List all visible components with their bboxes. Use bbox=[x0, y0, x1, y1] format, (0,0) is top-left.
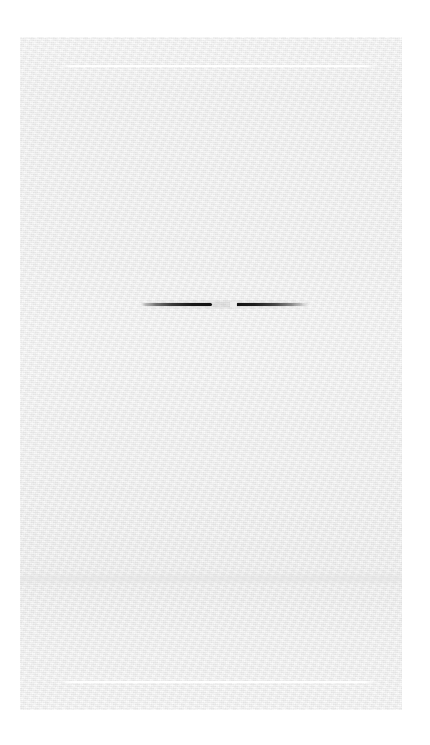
hairline-rule-bottom bbox=[58, 681, 378, 683]
ink-stroke-mark bbox=[135, 299, 290, 311]
ink-stroke-segment-right bbox=[236, 303, 309, 306]
paper-tone-overlay bbox=[20, 37, 402, 710]
viewport bbox=[0, 0, 430, 745]
scanned-page-panel[interactable] bbox=[20, 37, 402, 710]
paper-grain-fine bbox=[20, 37, 402, 710]
paper-grain-coarse bbox=[20, 37, 402, 710]
faint-tonal-band bbox=[20, 573, 402, 585]
ink-stroke-gap bbox=[230, 302, 237, 307]
ink-stroke-segment-left bbox=[141, 303, 212, 306]
hairline-rule-top bbox=[58, 65, 378, 67]
